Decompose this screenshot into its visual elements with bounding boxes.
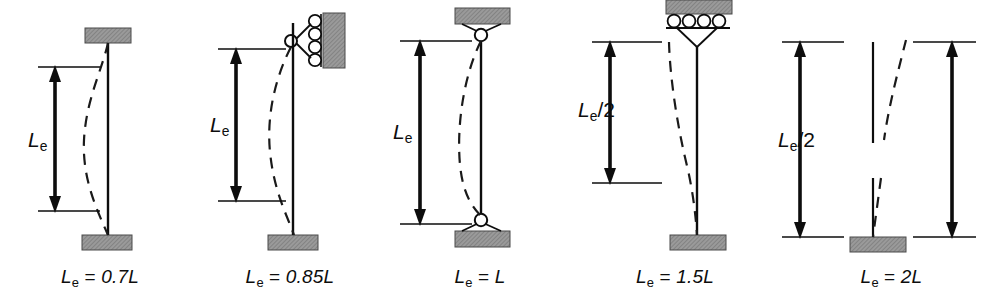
column-case-cantilever: Le/2 Le = 2L	[780, 0, 1003, 306]
dimension-label-text: L	[778, 128, 790, 151]
buckled-shape-dashed	[269, 47, 294, 235]
pin-circle	[285, 35, 297, 47]
roller-circle	[698, 15, 711, 28]
roller-circle	[713, 15, 726, 28]
caption-case-5: Le = 2L	[780, 266, 1003, 290]
roller-circle	[683, 15, 696, 28]
caption-case-4: Le = 1.5L	[570, 266, 780, 290]
dimension-label-subscript: e	[40, 138, 48, 154]
caption-subscript: e	[871, 275, 878, 290]
caption-value: 0.85L	[286, 266, 335, 287]
effective-length-figure: Le Le = 0.7L	[0, 0, 1003, 306]
caption-value: 1.5L	[676, 266, 714, 287]
case-4-drawing	[570, 0, 780, 280]
top-pin-circle	[475, 29, 487, 41]
roller-circle	[309, 54, 321, 66]
bottom-pin-circle	[475, 214, 487, 226]
caption-value: 2L	[901, 266, 923, 287]
caption-value: 0.7L	[101, 266, 139, 287]
bottom-fixed-support-block	[850, 237, 906, 252]
caption-subscript: e	[72, 275, 79, 290]
caption-symbol: L	[61, 266, 72, 287]
sway-bracket-left	[677, 28, 697, 47]
caption-case-2: Le = 0.85L	[190, 266, 390, 290]
roller-circle	[309, 28, 321, 40]
caption-equals: =	[879, 266, 901, 287]
dimension-label-subscript: e	[222, 123, 230, 139]
dimension-label-text: L	[210, 113, 222, 136]
column-case-fixed-sway: Le/2 Le = 1.5L	[570, 0, 780, 306]
caption-symbol: L	[861, 266, 872, 287]
caption-symbol: L	[636, 266, 647, 287]
dimension-label-subscript: e	[405, 130, 413, 146]
caption-case-3: Le = L	[380, 266, 580, 290]
caption-equals: =	[264, 266, 286, 287]
caption-case-1: Le = 0.7L	[0, 266, 200, 290]
dimension-label-le: Le	[393, 120, 412, 146]
buckled-shape-dashed	[459, 41, 481, 216]
bottom-fixed-support-block	[268, 235, 318, 250]
dimension-label-text: L	[28, 128, 40, 151]
bottom-support-block	[455, 231, 510, 247]
roller-circle	[668, 15, 681, 28]
buckled-shape-dashed	[84, 43, 108, 235]
dimension-label-le-half: Le/2	[578, 98, 615, 124]
bottom-fixed-support-block	[82, 235, 132, 250]
caption-value: L	[495, 266, 506, 287]
dimension-label-suffix: /2	[597, 98, 615, 121]
column-case-fixed-fixed: Le Le = 0.7L	[0, 0, 200, 306]
caption-symbol: L	[454, 266, 465, 287]
column-case-fixed-pinned: Le Le = 0.85L	[190, 0, 390, 306]
dimension-label-le: Le	[28, 128, 47, 154]
dimension-label-suffix: /2	[797, 128, 815, 151]
vertical-wall-block	[323, 13, 345, 68]
buckled-shape-dashed	[669, 42, 697, 235]
dimension-label-le: Le	[210, 113, 229, 139]
caption-subscript: e	[256, 275, 263, 290]
column-case-pinned-pinned: Le Le = L	[380, 0, 580, 306]
caption-equals: =	[472, 266, 494, 287]
caption-equals: =	[79, 266, 101, 287]
dimension-label-text: L	[578, 98, 590, 121]
sway-bracket-right	[697, 28, 717, 47]
dimension-label-text: L	[393, 120, 405, 143]
caption-symbol: L	[246, 266, 257, 287]
caption-subscript: e	[647, 275, 654, 290]
top-fixed-support-block	[85, 28, 131, 43]
case-2-drawing	[190, 0, 390, 280]
dimension-label-le-half: Le/2	[778, 128, 815, 154]
roller-circle	[309, 41, 321, 53]
buckled-shape-dashed-lower	[873, 178, 881, 237]
bottom-fixed-support-block	[670, 235, 726, 250]
buckled-shape-dashed-upper	[884, 40, 906, 140]
caption-equals: =	[654, 266, 676, 287]
top-support-block	[666, 0, 732, 14]
top-support-block	[455, 8, 510, 24]
